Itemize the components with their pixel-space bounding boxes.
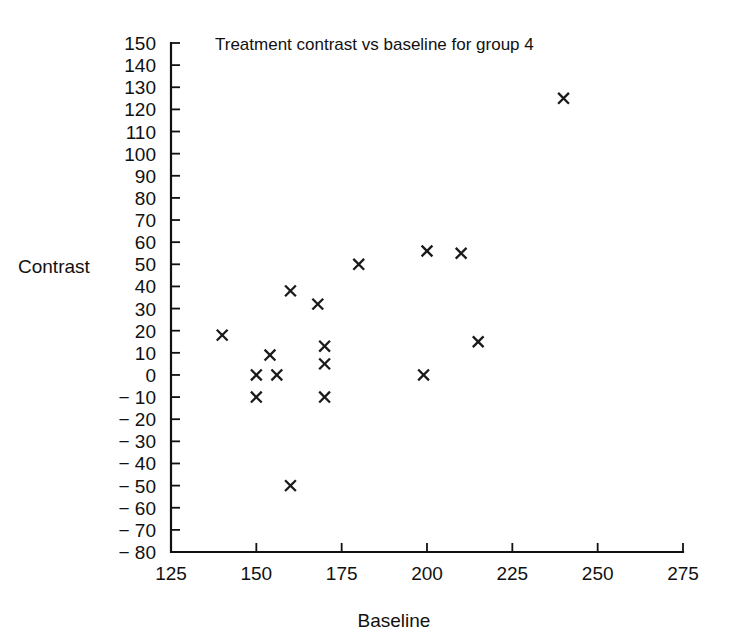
- scatter-plot-figure: Treatment contrast vs baseline for group…: [0, 0, 731, 637]
- y-tick-label-50: 50: [135, 254, 156, 275]
- x-tick-label-150: 150: [240, 563, 272, 584]
- y-tick-label--60: − 60: [118, 498, 156, 519]
- y-tick-label--30: − 30: [118, 431, 156, 452]
- plot-background: [0, 0, 731, 637]
- x-tick-label-225: 225: [496, 563, 528, 584]
- y-tick-label--80: − 80: [118, 542, 156, 563]
- y-tick-label-130: 130: [124, 77, 156, 98]
- y-tick-label-140: 140: [124, 55, 156, 76]
- x-tick-label-200: 200: [411, 563, 443, 584]
- y-tick-label--70: − 70: [118, 520, 156, 541]
- y-tick-label--20: − 20: [118, 409, 156, 430]
- y-tick-label-30: 30: [135, 299, 156, 320]
- y-tick-label-90: 90: [135, 166, 156, 187]
- y-tick-label-0: 0: [145, 365, 156, 386]
- plot-svg: Treatment contrast vs baseline for group…: [0, 0, 731, 637]
- y-tick-label-20: 20: [135, 321, 156, 342]
- x-tick-label-175: 175: [326, 563, 358, 584]
- y-tick-label-150: 150: [124, 33, 156, 54]
- y-tick-label--50: − 50: [118, 476, 156, 497]
- y-tick-label-10: 10: [135, 343, 156, 364]
- y-tick-label-40: 40: [135, 276, 156, 297]
- x-tick-label-125: 125: [155, 563, 187, 584]
- x-axis-label: Baseline: [358, 610, 431, 631]
- x-tick-label-250: 250: [582, 563, 614, 584]
- chart-title: Treatment contrast vs baseline for group…: [215, 35, 534, 54]
- y-tick-label-60: 60: [135, 232, 156, 253]
- y-axis-label: Contrast: [18, 256, 91, 277]
- y-tick-label--10: − 10: [118, 387, 156, 408]
- y-tick-label-100: 100: [124, 144, 156, 165]
- x-tick-label-275: 275: [667, 563, 699, 584]
- y-tick-label-120: 120: [124, 99, 156, 120]
- y-tick-label-70: 70: [135, 210, 156, 231]
- y-tick-label-80: 80: [135, 188, 156, 209]
- y-tick-label--40: − 40: [118, 453, 156, 474]
- y-tick-label-110: 110: [126, 122, 156, 143]
